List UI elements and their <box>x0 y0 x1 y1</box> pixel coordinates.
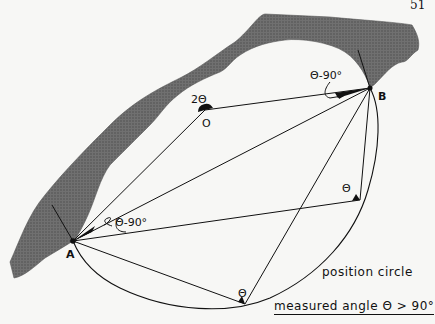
label-point-B: B <box>378 90 386 103</box>
line-B-right-point <box>360 88 370 200</box>
label-point-A: A <box>66 248 75 261</box>
label-angle-center: 2Θ <box>191 93 207 106</box>
page-number: 51 <box>410 0 425 12</box>
label-angle-at-A: Θ-90° <box>115 216 147 229</box>
label-position-circle: position circle <box>322 265 413 279</box>
figure-caption: measured angle Θ > 90° <box>274 299 434 315</box>
line-A-bottom-point <box>73 241 245 304</box>
angle-wedge-right <box>352 194 360 201</box>
label-angle-bottom-point: Θ <box>238 287 247 300</box>
label-angle-at-B: Θ-90° <box>310 69 342 82</box>
point-B <box>368 86 373 91</box>
point-A <box>70 238 76 244</box>
label-angle-right-point: Θ <box>342 182 351 195</box>
line-O-B <box>205 88 370 110</box>
label-center-O: O <box>202 117 211 130</box>
